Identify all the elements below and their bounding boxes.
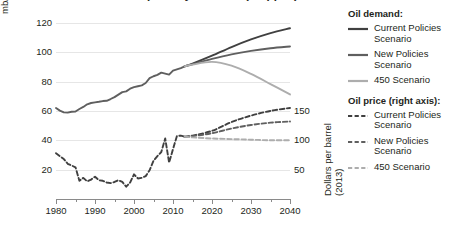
series-line [185, 108, 290, 137]
series-line [56, 136, 185, 187]
legend-item-label: 450 Scenario [374, 162, 430, 173]
series-line [185, 62, 290, 95]
legend-item[interactable]: Current Policies Scenario [348, 110, 453, 131]
chart-figure: mb/d Dollars per barrel (2013) 204060801… [0, 0, 453, 226]
series-line [185, 137, 290, 141]
legend-swatch-icon [348, 76, 368, 86]
chart-legend: Oil demand:Current Policies ScenarioNew … [348, 8, 453, 177]
legend-item-label: 450 Scenario [374, 75, 430, 86]
legend-swatch-icon [348, 137, 368, 147]
legend-item[interactable]: 450 Scenario [348, 75, 453, 86]
legend-group-title: Oil demand: [348, 8, 453, 19]
legend-swatch-icon [348, 163, 368, 173]
legend-item-label: New Policies Scenario [374, 136, 453, 157]
legend-item-label: Current Policies Scenario [374, 110, 453, 131]
legend-item[interactable]: Current Policies Scenario [348, 23, 453, 44]
legend-item-label: New Policies Scenario [374, 49, 453, 70]
legend-swatch-icon [348, 111, 368, 121]
legend-item[interactable]: New Policies Scenario [348, 49, 453, 70]
legend-item[interactable]: 450 Scenario [348, 162, 453, 173]
legend-swatch-icon [348, 24, 368, 34]
legend-group: Oil price (right axis):Current Policies … [348, 95, 453, 173]
series-line [56, 66, 185, 112]
legend-group-title: Oil price (right axis): [348, 95, 453, 106]
legend-group: Oil demand:Current Policies ScenarioNew … [348, 8, 453, 86]
legend-item-label: Current Policies Scenario [374, 23, 453, 44]
legend-item[interactable]: New Policies Scenario [348, 136, 453, 157]
series-line [185, 121, 290, 136]
legend-swatch-icon [348, 50, 368, 60]
